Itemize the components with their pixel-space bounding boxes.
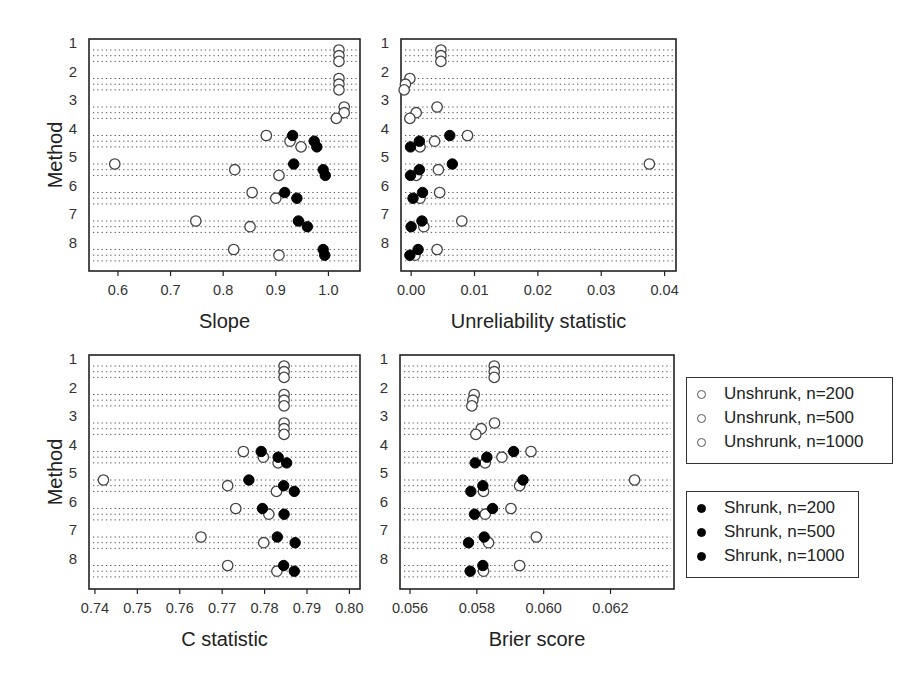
filled-data-point: [445, 130, 455, 140]
c-statistic-panel: 0.740.750.760.770.780.790.80C statistic1…: [44, 350, 364, 650]
legend-item: Shrunk, n=1000: [697, 544, 858, 568]
open-data-point: [279, 372, 289, 382]
filled-data-point: [470, 458, 480, 468]
filled-circle-icon: [697, 552, 706, 561]
x-tick-label: 0.74: [81, 600, 109, 616]
open-data-point: [467, 401, 477, 411]
filled-data-point: [289, 486, 299, 496]
open-data-point: [526, 446, 536, 456]
filled-data-point: [312, 142, 322, 152]
filled-data-point: [292, 193, 302, 203]
open-data-point: [191, 216, 201, 226]
open-data-point: [334, 56, 344, 66]
y-tick-label: 3: [381, 91, 389, 108]
open-data-point: [279, 401, 289, 411]
open-data-point: [274, 170, 284, 180]
x-tick-label: 0.060: [526, 600, 562, 616]
open-data-point: [334, 85, 344, 95]
open-data-point: [245, 222, 255, 232]
open-data-point: [436, 56, 446, 66]
open-data-point: [331, 113, 341, 123]
y-tick-label: 8: [69, 234, 77, 251]
x-axis-label: C statistic: [181, 628, 268, 650]
filled-data-point: [320, 170, 330, 180]
y-tick-label: 6: [69, 493, 77, 510]
open-data-point: [261, 130, 271, 140]
y-tick-label: 1: [69, 34, 77, 51]
filled-data-point: [279, 509, 289, 519]
open-data-point: [506, 503, 516, 513]
x-tick-label: 0.8: [213, 282, 233, 298]
y-tick-label: 5: [69, 148, 77, 165]
filled-data-point: [417, 187, 427, 197]
filled-data-point: [281, 458, 291, 468]
filled-data-point: [487, 503, 497, 513]
filled-data-point: [280, 187, 290, 197]
filled-data-point: [287, 130, 297, 140]
open-data-point: [259, 538, 269, 548]
open-data-point: [405, 113, 415, 123]
y-tick-label: 4: [381, 120, 389, 137]
y-tick-label: 8: [381, 234, 389, 251]
open-data-point: [110, 159, 120, 169]
legend-item: Shrunk, n=200: [697, 496, 858, 520]
y-tick-label: 6: [69, 177, 77, 194]
open-data-point: [399, 85, 409, 95]
x-tick-label: 1.0: [318, 282, 338, 298]
x-tick-label: 0.056: [392, 600, 428, 616]
filled-data-point: [302, 222, 312, 232]
y-tick-label: 2: [380, 379, 388, 396]
filled-data-point: [406, 222, 416, 232]
filled-data-point: [479, 532, 489, 542]
legend-label: Unshrunk, n=500: [724, 408, 854, 428]
x-tick-label: 0.80: [335, 600, 363, 616]
y-tick-label: 7: [69, 521, 77, 538]
filled-data-point: [272, 532, 282, 542]
filled-data-point: [447, 159, 457, 169]
filled-data-point: [320, 250, 330, 260]
y-tick-label: 7: [69, 205, 77, 222]
x-tick-label: 0.75: [123, 600, 151, 616]
plot-frame: [89, 39, 360, 271]
filled-data-point: [469, 509, 479, 519]
legend-label: Shrunk, n=200: [724, 498, 835, 518]
x-axis-label: Brier score: [489, 628, 586, 650]
open-circle-icon: [697, 414, 706, 423]
unreliability-panel: 0.000.010.020.030.04Unreliability statis…: [381, 34, 679, 332]
x-tick-label: 0.76: [166, 600, 194, 616]
open-data-point: [432, 102, 442, 112]
y-tick-label: 4: [69, 436, 77, 453]
filled-data-point: [466, 486, 476, 496]
y-tick-label: 7: [381, 205, 389, 222]
y-tick-label: 7: [380, 521, 388, 538]
filled-data-point: [478, 481, 488, 491]
y-tick-label: 5: [380, 464, 388, 481]
y-tick-label: 5: [381, 148, 389, 165]
open-data-point: [196, 532, 206, 542]
x-axis-label: Slope: [199, 310, 250, 332]
open-data-point: [238, 446, 248, 456]
y-tick-label: 2: [381, 63, 389, 80]
x-tick-label: 0.04: [650, 282, 678, 298]
open-data-point: [489, 372, 499, 382]
y-tick-label: 2: [69, 379, 77, 396]
legend-label: Unshrunk, n=200: [724, 384, 854, 404]
open-data-point: [433, 165, 443, 175]
legend-label: Shrunk, n=1000: [724, 546, 845, 566]
open-circle-icon: [697, 390, 706, 399]
filled-data-point: [278, 481, 288, 491]
open-data-point: [462, 130, 472, 140]
x-tick-label: 0.02: [524, 282, 552, 298]
open-data-point: [230, 165, 240, 175]
x-tick-label: 0.03: [587, 282, 615, 298]
open-data-point: [429, 136, 439, 146]
open-data-point: [229, 244, 239, 254]
x-tick-label: 0.78: [250, 600, 278, 616]
y-axis-label: Method: [44, 122, 66, 189]
open-data-point: [489, 418, 499, 428]
open-data-point: [296, 142, 306, 152]
filled-data-point: [405, 170, 415, 180]
open-data-point: [98, 475, 108, 485]
open-data-point: [497, 452, 507, 462]
y-tick-label: 3: [69, 91, 77, 108]
